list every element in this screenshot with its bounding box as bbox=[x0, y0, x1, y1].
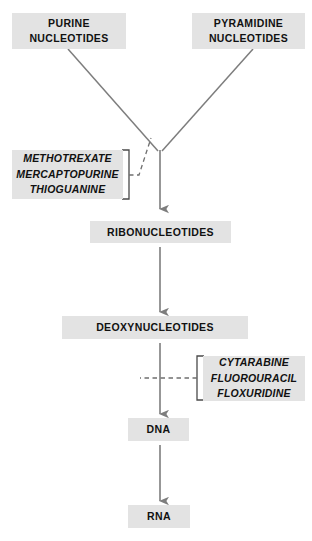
drug-lower-line-1: CYTARABINE bbox=[219, 355, 289, 371]
node-purine-nucleotides: PURINE NUCLEOTIDES bbox=[12, 13, 126, 49]
node-pyrimidine-line-1: PYRAMIDINE bbox=[214, 16, 283, 31]
bracket-upper-drugs bbox=[122, 150, 129, 199]
node-dna-label: DNA bbox=[147, 422, 171, 437]
node-deoxynucleotides-label: DEOXYNUCLEOTIDES bbox=[96, 320, 214, 335]
edge-purine-to-junction bbox=[68, 49, 158, 151]
node-purine-line-2: NUCLEOTIDES bbox=[29, 31, 108, 46]
node-drugs-lower: CYTARABINE FLUOROURACIL FLOXURIDINE bbox=[203, 356, 305, 401]
diagram-edges-layer bbox=[0, 0, 312, 541]
inhibition-line-upper-drugs bbox=[129, 138, 151, 175]
node-ribonucleotides-label: RIBONUCLEOTIDES bbox=[107, 225, 214, 240]
drug-lower-line-2: FLUOROURACIL bbox=[211, 371, 297, 387]
node-drugs-upper: METHOTREXATE MERCAPTOPURINE THIOGUANINE bbox=[12, 150, 123, 199]
node-pyrimidine-nucleotides: PYRAMIDINE NUCLEOTIDES bbox=[192, 13, 305, 49]
drug-upper-line-1: METHOTREXATE bbox=[23, 151, 112, 167]
node-pyrimidine-line-2: NUCLEOTIDES bbox=[209, 31, 288, 46]
node-deoxynucleotides: DEOXYNUCLEOTIDES bbox=[62, 316, 248, 339]
drug-upper-line-2: MERCAPTOPURINE bbox=[16, 167, 118, 183]
node-purine-line-1: PURINE bbox=[48, 16, 90, 31]
node-rna: RNA bbox=[128, 505, 190, 528]
node-dna: DNA bbox=[128, 418, 189, 441]
edge-pyrimidine-to-junction bbox=[162, 49, 253, 151]
drug-lower-line-3: FLOXURIDINE bbox=[217, 386, 290, 402]
node-ribonucleotides: RIBONUCLEOTIDES bbox=[90, 221, 231, 243]
pathway-diagram: PURINE NUCLEOTIDES PYRAMIDINE NUCLEOTIDE… bbox=[0, 0, 312, 541]
drug-upper-line-3: THIOGUANINE bbox=[30, 182, 106, 198]
node-rna-label: RNA bbox=[147, 509, 171, 524]
